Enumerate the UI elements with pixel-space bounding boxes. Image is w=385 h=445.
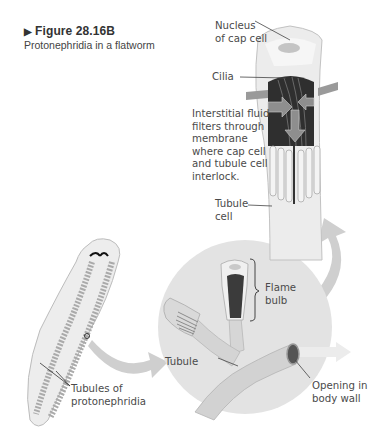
label-filtration-note: Interstitial fluid filters through membr… [192,108,269,183]
label-line: interlock. [192,171,269,184]
label-line: and tubule cell [192,158,269,171]
protonephridia-illustration [0,0,385,445]
label-line: Opening in [312,380,368,393]
label-line: bulb [265,295,296,308]
label-tubules-of-protonephridia: Tubules of protonephridia [71,383,146,408]
worm-to-detail-arrow [88,340,168,378]
label-line: body wall [312,393,368,406]
label-line: Nucleus [215,20,267,33]
label-tubule: Tubule [165,356,198,369]
label-line: Tubule [215,198,248,211]
label-line: protonephridia [71,396,146,409]
label-line: membrane [192,133,269,146]
label-line: where cap cell [192,146,269,159]
label-line: cell [215,211,248,224]
label-line: filters through [192,121,269,134]
label-line: of cap cell [215,33,267,46]
label-line: Interstitial fluid [192,108,269,121]
label-flame-bulb: Flame bulb [265,282,296,307]
label-opening-in-body-wall: Opening in body wall [312,380,368,405]
label-cilia: Cilia [212,71,234,84]
label-tubule-cell: Tubule cell [215,198,248,223]
label-line: Flame [265,282,296,295]
label-nucleus-of-cap-cell: Nucleus of cap cell [215,20,267,45]
label-line: Tubules of [71,383,146,396]
